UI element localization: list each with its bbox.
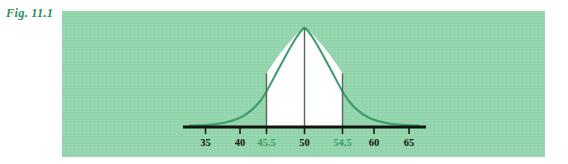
x-tick-label-65: 65	[404, 137, 415, 148]
x-tick-label-50: 50	[299, 137, 310, 148]
x-tick-label-60: 60	[369, 137, 380, 148]
figure-container: Fig. 11.1 35 40 45.5 50 54.5 60	[0, 0, 568, 164]
x-tick-label-45p5: 45.5	[257, 137, 275, 148]
x-tick-label-40: 40	[235, 137, 246, 148]
x-tick-label-35: 35	[200, 137, 211, 148]
x-tick-label-54p5: 54.5	[333, 137, 351, 148]
normal-distribution-plot: 35 40 45.5 50 54.5 60 65	[0, 0, 568, 164]
